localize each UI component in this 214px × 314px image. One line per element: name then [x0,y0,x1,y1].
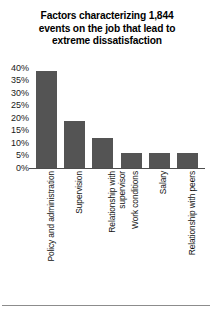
x-axis-category-labels: Policy and administrationSupervisionRela… [33,171,205,291]
bottom-rule [2,305,210,306]
y-axis-tick-30: 30% [11,89,29,98]
y-axis-tick-15: 15% [11,126,29,135]
y-axis-tick-5: 5% [16,151,29,160]
chart-title-line-1: Factors characterizing 1,844 [8,10,206,23]
x-axis-label-3: Relationship withsupervisor [108,171,127,291]
x-axis-line [29,168,205,169]
plot-area [33,68,205,168]
chart-figure: Factors characterizing 1,844 events on t… [0,0,214,314]
chart-title-line-2: events on the job that lead to [8,23,206,36]
bar-5 [149,153,170,168]
bar-2 [64,121,85,169]
bar-6 [177,153,198,168]
chart-title-line-3: extreme dissatisfaction [8,35,206,48]
y-axis-tick-20: 20% [11,114,29,123]
y-axis-tick-35: 35% [11,76,29,85]
y-axis-tick-0: 0% [16,164,29,173]
y-axis-tick-25: 25% [11,101,29,110]
x-axis-label-4: Work conditions [131,171,141,291]
x-axis-label-1: Policy and administration [47,171,57,291]
y-axis-tick-10: 10% [11,139,29,148]
x-axis-label-5: Salary [159,171,169,291]
x-axis-label-6: Relationship with peers [188,171,198,291]
y-axis: 0%5%10%15%20%25%30%35%40% [0,60,31,176]
bar-1 [36,71,57,169]
x-axis-label-2: Supervision [75,171,85,291]
bar-3 [92,138,113,168]
bar-4 [121,153,142,168]
chart-title: Factors characterizing 1,844 events on t… [8,10,206,48]
y-axis-tick-40: 40% [11,64,29,73]
